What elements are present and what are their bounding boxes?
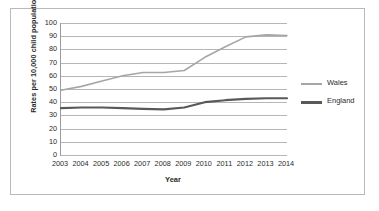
- chart-legend: WalesEngland: [301, 75, 365, 111]
- plot-area: [60, 23, 287, 156]
- gridline: [61, 155, 287, 156]
- y-axis-tick-labels: 0102030405060708090100: [35, 23, 57, 155]
- legend-swatch-icon: [301, 83, 322, 85]
- y-tick-label: 20: [35, 124, 57, 134]
- y-tick-label: 100: [35, 18, 57, 28]
- x-tick-label: 2014: [271, 158, 301, 170]
- legend-label: Wales: [327, 77, 348, 89]
- y-tick-label: 70: [35, 58, 57, 68]
- series-line-england: [61, 98, 287, 109]
- y-tick-label: 10: [35, 137, 57, 147]
- y-tick-label: 60: [35, 71, 57, 81]
- x-axis-title: Year: [60, 174, 286, 186]
- y-tick-label: 80: [35, 44, 57, 54]
- series-line-wales: [61, 35, 287, 90]
- legend-label: England: [327, 95, 355, 107]
- y-tick-label: 30: [35, 110, 57, 120]
- y-tick-label: 50: [35, 84, 57, 94]
- y-tick-label: 40: [35, 97, 57, 107]
- legend-item-england: England: [301, 93, 365, 111]
- legend-swatch-icon: [301, 101, 322, 104]
- chart-figure: Rates per 10,000 child population 010203…: [10, 8, 365, 195]
- series-lines: [61, 23, 287, 155]
- x-axis-tick-labels: 2003200420052006200720082009201020112012…: [60, 158, 286, 174]
- legend-item-wales: Wales: [301, 75, 365, 93]
- y-tick-label: 90: [35, 31, 57, 41]
